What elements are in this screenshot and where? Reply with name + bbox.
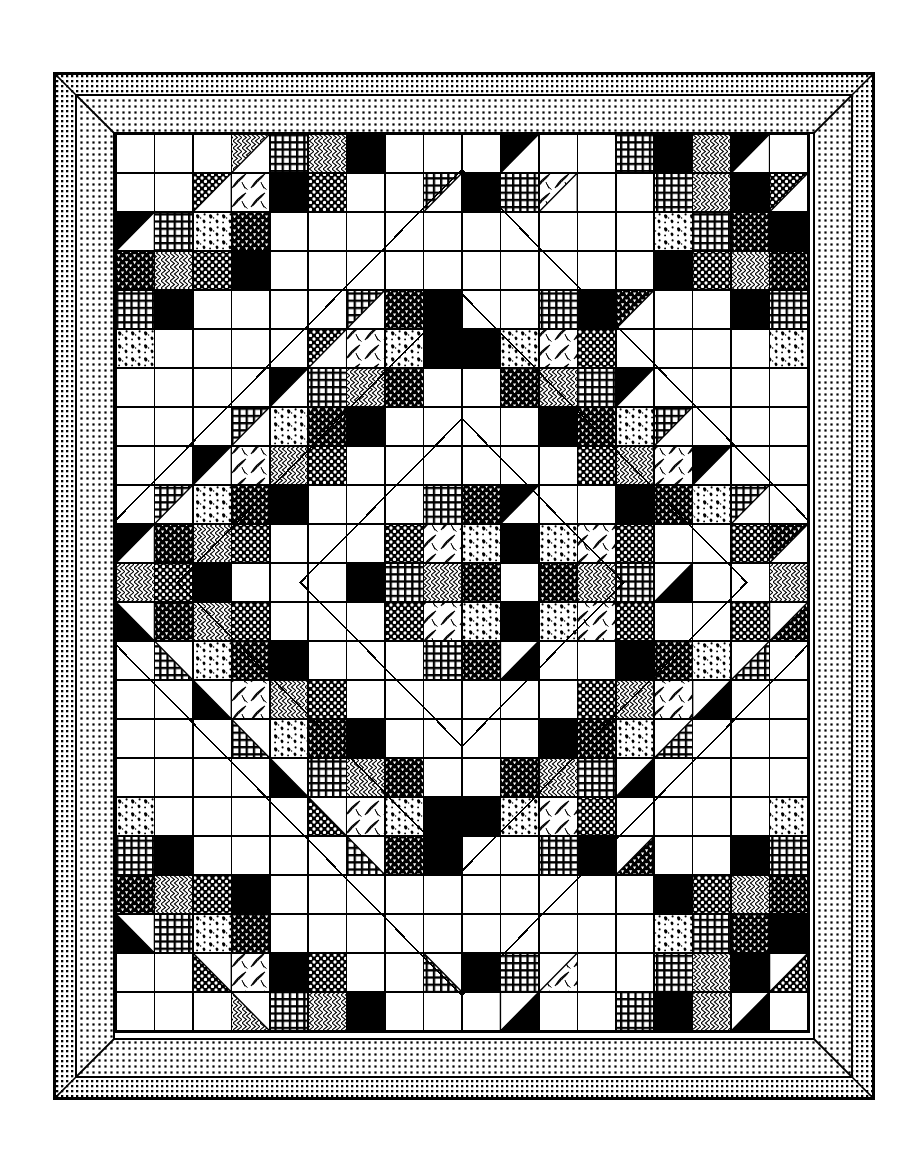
quilt-patch [116,173,154,212]
quilt-patch [347,212,385,251]
quilt-patch [539,875,577,914]
quilt-patch [116,407,154,446]
quilt-patch [654,758,692,797]
quilt-patch [654,329,692,368]
quilt-patch [385,407,423,446]
quilt-patch [500,524,538,563]
quilt-patch [193,134,231,173]
quilt-patch [577,953,615,992]
quilt-patch [231,446,269,485]
quilt-patch [193,212,231,251]
quilt-patch [231,212,269,251]
quilt-patch [424,875,462,914]
quilt-patch [308,875,346,914]
quilt-patch [462,251,500,290]
quilt-patch [385,602,423,641]
quilt-patch [731,368,769,407]
quilt-patch [270,563,308,602]
quilt-patch [308,134,346,173]
quilt-patch [385,680,423,719]
quilt-patch [154,875,192,914]
quilt-patch [577,173,615,212]
quilt-patch [116,680,154,719]
quilt-patch [654,485,692,524]
quilt-patch [193,719,231,758]
quilt-patch [231,797,269,836]
quilt-patch [616,251,654,290]
quilt-patch [654,251,692,290]
quilt-patch [424,251,462,290]
quilt-patch [154,602,192,641]
quilt-patch [770,836,808,875]
quilt-patch [270,251,308,290]
quilt-patch [616,173,654,212]
quilt-patch [385,797,423,836]
quilt-patch [539,212,577,251]
quilt-patch [270,914,308,953]
quilt-patch [154,836,192,875]
quilt-patch [731,719,769,758]
quilt-patch [116,134,154,173]
quilt-patch [770,992,808,1031]
quilt-patch [270,407,308,446]
quilt-patch [770,914,808,953]
quilt-patch [539,134,577,173]
quilt-patch [462,953,500,992]
quilt-patch [231,251,269,290]
quilt-patch [770,797,808,836]
quilt-patch [577,602,615,641]
quilt-patch [424,719,462,758]
quilt-patch [154,758,192,797]
quilt-patch [770,875,808,914]
quilt-patch [347,641,385,680]
quilt-patch [193,992,231,1031]
quilt-patch [462,914,500,953]
quilt-patch [500,173,538,212]
quilt-patch [193,641,231,680]
quilt-patch [193,251,231,290]
quilt-patch [116,329,154,368]
quilt-patch [539,914,577,953]
quilt-patch [539,836,577,875]
quilt-patch [347,953,385,992]
quilt-patch [616,446,654,485]
quilt-patch [385,368,423,407]
quilt-patch [308,251,346,290]
quilt-patch [231,173,269,212]
quilt-patch [539,368,577,407]
quilt-patch [616,212,654,251]
quilt-patch [116,290,154,329]
quilt-patch [500,212,538,251]
quilt-patch [193,914,231,953]
quilt-patch [347,797,385,836]
quilt-patch [193,290,231,329]
quilt-patch [308,914,346,953]
quilt-patch [462,602,500,641]
quilt-patch [308,719,346,758]
quilt-patch [693,914,731,953]
quilt-patch [270,992,308,1031]
quilt-patch [308,524,346,563]
quilt-patch [616,134,654,173]
quilt-patch [770,290,808,329]
quilt-patch [385,875,423,914]
quilt-patch [616,719,654,758]
quilt-patch [270,134,308,173]
quilt-patch [347,485,385,524]
quilt-patch [577,758,615,797]
quilt-patch [693,875,731,914]
quilt-patch [424,329,462,368]
quilt-patch [385,758,423,797]
quilt-patch [116,875,154,914]
quilt-patch [193,602,231,641]
quilt-patch [693,563,731,602]
quilt-patch [577,134,615,173]
quilt-patch [116,836,154,875]
quilt-patch [193,524,231,563]
quilt-top-grid [114,132,810,1033]
quilt-patch [693,407,731,446]
quilt-patch [462,992,500,1031]
quilt-patch [385,251,423,290]
quilt-patch [654,602,692,641]
quilt-patch [424,212,462,251]
